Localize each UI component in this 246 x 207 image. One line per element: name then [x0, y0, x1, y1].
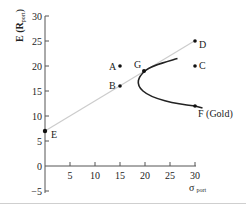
svg-text:25: 25: [165, 170, 175, 181]
label-a: A: [109, 61, 117, 72]
svg-text:30: 30: [190, 170, 200, 181]
chart: E (Rport) 30 25 20 15 10 5 0 −5 5 10 15: [0, 0, 246, 207]
y-tick-labels: 30 25 20 15 10 5 0 −5: [31, 11, 42, 197]
point-f: [193, 104, 197, 108]
y-ticks: [45, 16, 49, 191]
svg-text:10: 10: [90, 170, 100, 181]
label-e: E: [51, 129, 57, 140]
point-e: [43, 129, 47, 133]
point-d: [193, 39, 197, 43]
svg-text:25: 25: [32, 36, 42, 47]
svg-text:0: 0: [37, 161, 42, 172]
svg-text:10: 10: [32, 111, 42, 122]
label-g: G: [134, 59, 141, 70]
y-axis-title: E (Rport): [14, 9, 26, 42]
svg-text:5: 5: [68, 170, 73, 181]
svg-text:15: 15: [115, 170, 125, 181]
label-f: F (Gold): [198, 108, 233, 120]
frontier-curve: [138, 59, 202, 109]
label-d: D: [199, 39, 206, 50]
point-b: [118, 84, 122, 88]
point-g: [142, 69, 146, 73]
svg-text:−5: −5: [31, 186, 42, 197]
svg-text:30: 30: [32, 11, 42, 22]
bottom-divider: [0, 203, 246, 204]
svg-text:20: 20: [32, 61, 42, 72]
svg-text:5: 5: [37, 136, 42, 147]
label-c: C: [199, 60, 206, 71]
label-b: B: [109, 80, 116, 91]
x-ticks: [70, 162, 195, 166]
svg-text:15: 15: [32, 86, 42, 97]
point-c: [193, 64, 197, 68]
point-a: [118, 64, 122, 68]
x-axis-title: σport: [189, 182, 206, 193]
x-tick-labels: 5 10 15 20 25 30: [68, 170, 201, 181]
svg-text:20: 20: [140, 170, 150, 181]
